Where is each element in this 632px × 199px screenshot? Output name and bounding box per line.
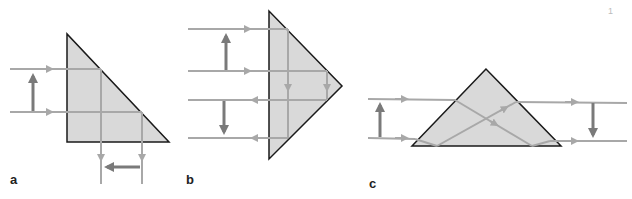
- panel-label-b: b: [186, 172, 194, 187]
- right-angle-prism: [67, 34, 169, 142]
- panel-b: [188, 11, 342, 159]
- panel-label-a: a: [10, 172, 17, 187]
- porro-prism: [269, 11, 342, 159]
- prism-diagram: [0, 0, 632, 199]
- dove-prism: [412, 69, 561, 146]
- panel-c: [368, 69, 627, 146]
- page-mark: 1: [608, 6, 613, 16]
- panel-a: [10, 34, 169, 184]
- panel-label-c: c: [369, 176, 376, 191]
